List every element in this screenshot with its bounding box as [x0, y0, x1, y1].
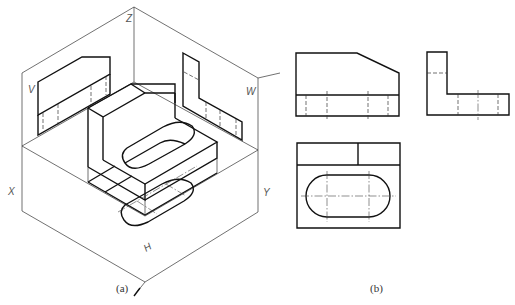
axis-label-y: Y — [263, 187, 271, 198]
v-plane-projection — [38, 57, 110, 135]
side-view — [427, 52, 509, 120]
top-view — [297, 143, 400, 228]
isometric-object — [88, 84, 217, 200]
projection-box — [22, 7, 280, 296]
axis-label-x: X — [7, 186, 15, 197]
caption-a: (a) — [116, 282, 129, 295]
plane-label-v: V — [28, 84, 36, 95]
plane-label-h: H — [142, 240, 154, 254]
plane-label-w: W — [246, 86, 257, 97]
caption-b: (b) — [370, 282, 383, 295]
h-plane-projection — [88, 158, 217, 226]
drawing-canvas: Z V W X Y H (a) (b) — [0, 0, 515, 305]
axis-label-z: Z — [125, 13, 133, 24]
front-view — [296, 53, 399, 121]
